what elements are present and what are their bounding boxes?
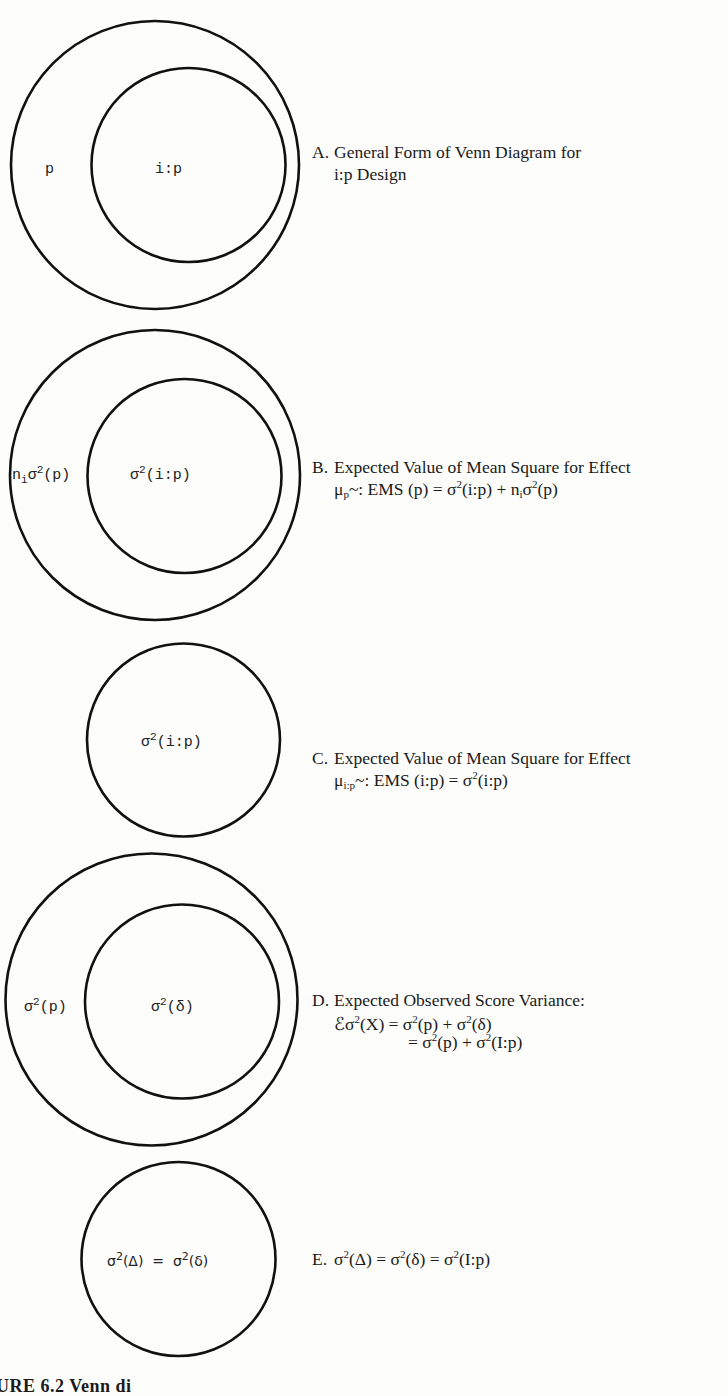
- caption-d-formula-2: = σ2(p) + σ2(I:p): [312, 1033, 585, 1051]
- label-part: (δ): [167, 999, 194, 1016]
- formula-sub: i:p: [343, 779, 355, 791]
- caption-a-line-2: i:p Design: [312, 163, 581, 185]
- panel-letter: B.: [312, 456, 334, 478]
- label-c: σ2(i:p): [141, 735, 202, 750]
- formula-part: (X) = σ: [360, 1014, 412, 1034]
- label-part: (i:p): [146, 467, 191, 484]
- formula-part: (δ) = σ: [405, 1249, 453, 1269]
- label-a-outer: p: [45, 162, 54, 177]
- caption-a: A.General Form of Venn Diagram for i:p D…: [312, 141, 581, 185]
- label-part: σ: [151, 999, 160, 1016]
- formula-part: = σ: [408, 1032, 432, 1052]
- caption-d-line-1: D.Expected Observed Score Variance:: [312, 989, 585, 1011]
- caption-c-formula: μi:p~: EMS (i:p) = σ2(i:p): [312, 769, 631, 791]
- formula-part: μ: [334, 770, 343, 790]
- caption-c-line-1: C.Expected Value of Mean Square for Effe…: [312, 747, 631, 769]
- label-part: (δ): [189, 1253, 209, 1269]
- label-sup: 2: [139, 464, 146, 476]
- label-part: σ: [107, 1253, 116, 1269]
- formula-part: μ: [334, 479, 343, 499]
- panel-letter: E.: [312, 1248, 334, 1270]
- formula-part: ~: EMS (i:p) = σ: [355, 770, 472, 790]
- label-sup: 2: [150, 731, 157, 743]
- label-sup: 2: [116, 1250, 123, 1263]
- formula-part: σ: [522, 479, 531, 499]
- label-b-inner: σ2(i:p): [130, 468, 191, 483]
- caption-d-formula-1: ℰσ2(X) = σ2(p) + σ2(δ): [312, 1015, 585, 1033]
- panel-letter: C.: [312, 747, 334, 769]
- caption-b-line-1: B.Expected Value of Mean Square for Effe…: [312, 456, 631, 478]
- label-sup: 2: [182, 1250, 189, 1263]
- label-part: σ: [28, 467, 37, 484]
- label-b-outer: niσ2(p): [12, 468, 70, 483]
- formula-part: (I:p): [459, 1249, 490, 1269]
- formula-part: ℰσ: [334, 1014, 354, 1034]
- caption-text: General Form of Venn Diagram for: [334, 142, 581, 162]
- formula-part: (i:p) + n: [462, 479, 520, 499]
- caption-text: Expected Value of Mean Square for Effect: [334, 457, 631, 477]
- figure-caption: URE 6.2 Venn di: [0, 1376, 132, 1396]
- label-part: σ: [141, 734, 150, 751]
- label-part: σ: [24, 999, 33, 1016]
- label-sub: i: [21, 474, 28, 486]
- formula-part: (p): [537, 479, 557, 499]
- label-part: (Δ) = σ: [123, 1253, 182, 1269]
- label-part: (i:p): [157, 734, 202, 751]
- label-a-inner: i:p: [155, 162, 182, 177]
- label-e: σ2(Δ) = σ2(δ): [107, 1254, 208, 1268]
- caption-a-line-1: A.General Form of Venn Diagram for: [312, 141, 581, 163]
- label-sup: 2: [160, 996, 167, 1008]
- formula-part: ~: EMS (p) = σ: [349, 479, 457, 499]
- caption-text: Expected Value of Mean Square for Effect: [334, 748, 631, 768]
- caption-text: Expected Observed Score Variance:: [334, 990, 585, 1010]
- caption-e: E.σ2(Δ) = σ2(δ) = σ2(I:p): [312, 1248, 490, 1270]
- formula-part: (p) + σ: [418, 1014, 466, 1034]
- formula-part: (Δ) = σ: [349, 1249, 400, 1269]
- label-text: p: [45, 161, 54, 178]
- label-text: i:p: [155, 161, 182, 178]
- panel-letter: A.: [312, 141, 334, 163]
- label-d-inner: σ2(δ): [151, 1000, 194, 1015]
- caption-b: B.Expected Value of Mean Square for Effe…: [312, 456, 631, 500]
- label-part: σ: [130, 467, 139, 484]
- caption-c: C.Expected Value of Mean Square for Effe…: [312, 747, 631, 791]
- formula-part: (I:p): [491, 1032, 522, 1052]
- circle-a-inner: [92, 68, 286, 262]
- label-d-outer: σ2(p): [24, 1000, 67, 1015]
- caption-d: D.Expected Observed Score Variance: ℰσ2(…: [312, 989, 585, 1051]
- label-part: (p): [43, 467, 70, 484]
- caption-b-formula: μp~: EMS (p) = σ2(i:p) + niσ2(p): [312, 478, 631, 500]
- formula-part: (p) + σ: [437, 1032, 485, 1052]
- label-part: (p): [40, 999, 67, 1016]
- label-sup: 2: [33, 996, 40, 1008]
- label-part: n: [12, 467, 21, 484]
- formula-part: (i:p): [478, 770, 508, 790]
- panel-letter: D.: [312, 989, 334, 1011]
